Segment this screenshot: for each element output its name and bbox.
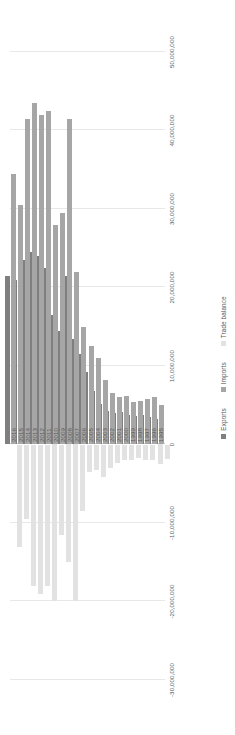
legend-item[interactable]: Trade balance bbox=[220, 296, 227, 346]
bar-balance bbox=[108, 445, 113, 469]
bar-imports bbox=[39, 115, 44, 445]
legend-item[interactable]: Imports bbox=[220, 362, 227, 392]
bar-imports bbox=[60, 213, 65, 445]
bar-group bbox=[130, 52, 137, 680]
bar-group bbox=[144, 52, 151, 680]
axis-tick-label: 20,000,000 bbox=[168, 272, 175, 304]
bar-balance bbox=[143, 445, 148, 461]
bar-group bbox=[137, 52, 144, 680]
bar-group bbox=[10, 52, 17, 680]
bar-imports bbox=[74, 272, 79, 445]
bar-imports bbox=[18, 205, 23, 444]
value-axis-labels: 50,000,00040,000,00030,000,00020,000,000… bbox=[168, 52, 212, 680]
legend-label: Trade balance bbox=[220, 296, 227, 338]
bar-balance bbox=[45, 445, 50, 586]
bar-group bbox=[109, 52, 116, 680]
bar-balance bbox=[66, 445, 71, 563]
bar-imports bbox=[110, 393, 115, 445]
axis-tick-label: 10,000,000 bbox=[168, 350, 175, 382]
bar-group bbox=[151, 52, 158, 680]
bar-imports bbox=[53, 225, 58, 445]
bar-imports bbox=[159, 405, 164, 444]
bar-imports bbox=[103, 380, 108, 444]
axis-tick-label: -20,000,000 bbox=[168, 584, 175, 618]
axis-tick-label: 0 bbox=[168, 443, 175, 447]
bar-group bbox=[66, 52, 73, 680]
bar-group bbox=[17, 52, 24, 680]
bar-imports bbox=[152, 397, 157, 444]
bar-balance bbox=[31, 445, 36, 586]
legend-label: Exports bbox=[220, 408, 227, 430]
bar-balance bbox=[38, 445, 43, 594]
legend-item[interactable]: Exports bbox=[220, 408, 227, 438]
bar-balance bbox=[94, 445, 99, 471]
legend-label: Imports bbox=[220, 362, 227, 384]
bar-group bbox=[123, 52, 130, 680]
axis-tick-label: 50,000,000 bbox=[168, 36, 175, 68]
legend-swatch-icon bbox=[221, 387, 226, 392]
bar-imports bbox=[145, 399, 150, 445]
bar-imports bbox=[25, 119, 30, 445]
bar-group bbox=[116, 52, 123, 680]
bar-imports bbox=[96, 358, 101, 444]
bar-exports bbox=[5, 276, 10, 445]
legend-swatch-icon bbox=[221, 434, 226, 439]
bar-imports bbox=[117, 397, 122, 444]
bar-group bbox=[95, 52, 102, 680]
bar-balance bbox=[122, 445, 127, 461]
bar-imports bbox=[124, 396, 129, 445]
bar-balance bbox=[24, 445, 29, 520]
legend-swatch-icon bbox=[221, 341, 226, 346]
bar-balance bbox=[87, 445, 92, 472]
bar-group bbox=[88, 52, 95, 680]
bar-group bbox=[158, 52, 165, 680]
bar-balance bbox=[129, 445, 134, 461]
bar-imports bbox=[32, 103, 37, 444]
bar-balance bbox=[158, 445, 163, 465]
axis-tick-label: -30,000,000 bbox=[168, 663, 175, 697]
bar-imports bbox=[11, 174, 16, 445]
bar-balance bbox=[52, 445, 57, 602]
bar-imports bbox=[81, 327, 86, 445]
bar-balance bbox=[80, 445, 85, 512]
axis-tick-label: 40,000,000 bbox=[168, 115, 175, 147]
bar-imports bbox=[131, 402, 136, 444]
rotated-chart-wrapper: 1995199619971998199920002001200220032004… bbox=[0, 0, 235, 735]
bar-balance bbox=[17, 445, 22, 547]
bar-group bbox=[24, 52, 31, 680]
bar-imports bbox=[138, 401, 143, 445]
axis-tick-label: -10,000,000 bbox=[168, 506, 175, 540]
bar-balance bbox=[101, 445, 106, 478]
bar-imports bbox=[46, 111, 51, 445]
bar-group bbox=[59, 52, 66, 680]
axis-tick-label: 30,000,000 bbox=[168, 193, 175, 225]
bar-balance bbox=[59, 445, 64, 535]
bar-imports bbox=[89, 346, 94, 444]
bar-balance bbox=[150, 445, 155, 461]
trade-bar-chart: 1995199619971998199920002001200220032004… bbox=[0, 0, 235, 735]
bar-balance bbox=[73, 445, 78, 602]
bar-balance bbox=[115, 445, 120, 463]
bar-group bbox=[80, 52, 87, 680]
bar-group bbox=[102, 52, 109, 680]
chart-legend: ExportsImportsTrade balance bbox=[214, 0, 232, 735]
bar-imports bbox=[67, 119, 72, 445]
bar-balance bbox=[136, 445, 141, 458]
plot-area bbox=[10, 52, 165, 680]
